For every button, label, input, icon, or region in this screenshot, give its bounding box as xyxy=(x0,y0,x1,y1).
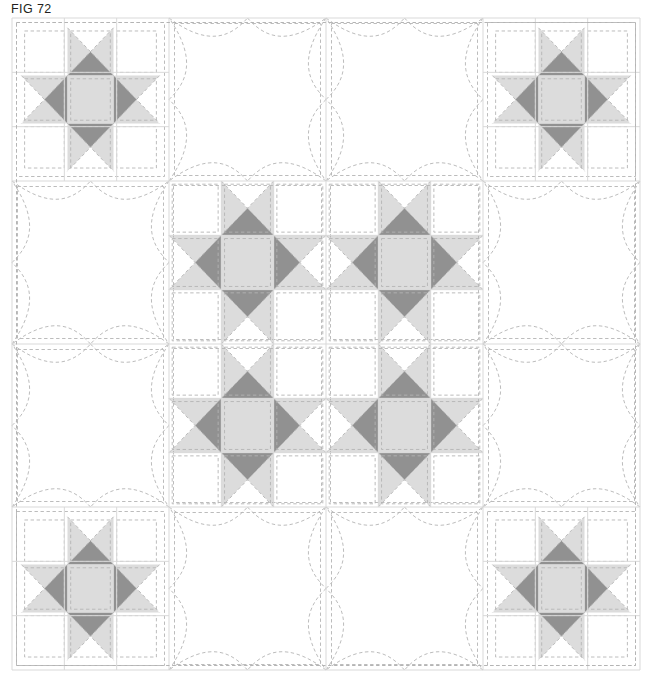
quilt-block-plain-r1-c3 xyxy=(483,181,640,344)
figure-label: FIG 72 xyxy=(11,2,52,16)
quilt-diagram xyxy=(0,0,651,680)
quilt-block-star-r1-c2 xyxy=(326,181,483,344)
plain-block-ground xyxy=(483,181,640,344)
plain-block-ground xyxy=(169,507,326,670)
star-center-square xyxy=(378,235,430,289)
quilt-block-star-r0-c0 xyxy=(12,18,169,181)
star-center-square xyxy=(221,398,273,452)
quilt-block-plain-r3-c1 xyxy=(169,507,326,670)
star-center-square xyxy=(538,76,584,124)
quilt-block-plain-r3-c2 xyxy=(326,507,483,670)
quilt-block-plain-r0-c1 xyxy=(169,18,326,181)
plain-block-ground xyxy=(326,507,483,670)
plain-block-ground xyxy=(12,344,169,507)
star-center-square xyxy=(67,565,113,613)
star-center-square xyxy=(378,398,430,452)
quilt-block-star-r0-c3 xyxy=(483,18,640,181)
plain-block-ground xyxy=(12,181,169,344)
star-center-square xyxy=(67,76,113,124)
quilt-block-star-r2-c2 xyxy=(326,344,483,507)
quilt-block-plain-r1-c0 xyxy=(12,181,169,344)
quilt-block-star-r3-c0 xyxy=(12,507,169,670)
star-center-square xyxy=(221,235,273,289)
quilt-block-plain-r0-c2 xyxy=(326,18,483,181)
quilt-block-star-r3-c3 xyxy=(483,507,640,670)
quilt-block-plain-r2-c3 xyxy=(483,344,640,507)
plain-block-ground xyxy=(326,18,483,181)
quilt-block-star-r2-c1 xyxy=(169,344,326,507)
plain-block-ground xyxy=(483,344,640,507)
plain-block-ground xyxy=(169,18,326,181)
quilt-block-star-r1-c1 xyxy=(169,181,326,344)
figure-container: FIG 72 xyxy=(0,0,651,680)
star-center-square xyxy=(538,565,584,613)
quilt-block-plain-r2-c0 xyxy=(12,344,169,507)
